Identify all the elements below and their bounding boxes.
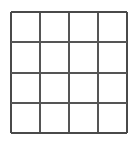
grid-cell xyxy=(40,73,69,103)
grid-cell xyxy=(69,73,98,103)
grid-cell xyxy=(98,103,127,133)
grid-svg xyxy=(11,12,127,133)
grid-cell xyxy=(40,42,69,73)
grid-cell xyxy=(98,12,127,42)
grid-cell xyxy=(11,73,40,103)
figure-canvas xyxy=(0,0,137,141)
grid-cell xyxy=(69,42,98,73)
grid-cell xyxy=(69,12,98,42)
grid-cell xyxy=(11,103,40,133)
grid-cell xyxy=(40,103,69,133)
grid-cell xyxy=(11,12,40,42)
grid-cell xyxy=(69,103,98,133)
grid-cell xyxy=(98,42,127,73)
grid-cell xyxy=(11,42,40,73)
grid-cell xyxy=(40,12,69,42)
grid-figure xyxy=(11,12,127,133)
grid-cell xyxy=(98,73,127,103)
